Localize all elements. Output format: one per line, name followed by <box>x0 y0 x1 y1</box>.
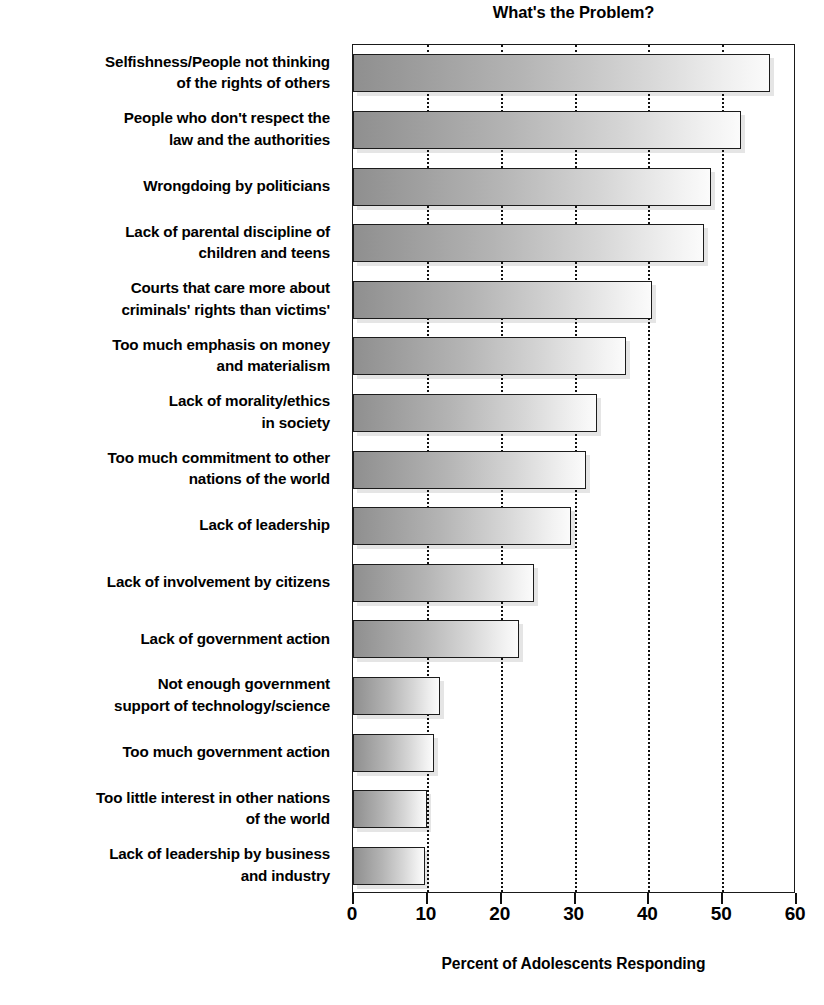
category-label: Lack of involvement by citizens <box>107 571 338 593</box>
x-tick-label-50: 50 <box>691 903 751 925</box>
bar[interactable] <box>353 394 597 432</box>
category-label-row: Lack of government action <box>0 610 338 667</box>
bar[interactable] <box>353 847 425 885</box>
category-label-row: Too much emphasis on money and materiali… <box>0 327 338 384</box>
category-label-row: Selfishness/People not thinking of the r… <box>0 44 338 101</box>
bar[interactable] <box>353 620 519 658</box>
bar-row <box>353 111 794 149</box>
bar-row <box>353 564 794 602</box>
plot-area <box>352 44 795 893</box>
category-label: Too much government action <box>122 741 338 763</box>
bar[interactable] <box>353 54 770 92</box>
chart-title: What's the Problem? <box>352 2 795 22</box>
bar[interactable] <box>353 564 534 602</box>
category-label-row: Lack of leadership <box>0 497 338 554</box>
category-label: Not enough government support of technol… <box>114 673 338 716</box>
bar-row <box>353 451 794 489</box>
x-tick-label-20: 20 <box>470 903 530 925</box>
category-label: Too much emphasis on money and materiali… <box>112 334 338 377</box>
bar-chart: What's the Problem? Selfishness/People n… <box>0 0 824 1005</box>
category-label-row: Courts that care more about criminals' r… <box>0 270 338 327</box>
category-label-row: Lack of involvement by citizens <box>0 553 338 610</box>
bar-row <box>353 394 794 432</box>
bars-layer <box>353 45 794 892</box>
bar-row <box>353 734 794 772</box>
category-label-row: People who don't respect the law and the… <box>0 101 338 158</box>
category-label: Courts that care more about criminals' r… <box>121 277 338 320</box>
category-label: Lack of leadership <box>199 514 338 536</box>
x-tick-label-40: 40 <box>617 903 677 925</box>
x-tick-label-10: 10 <box>396 903 456 925</box>
category-label-row: Too little interest in other nations of … <box>0 780 338 837</box>
bar[interactable] <box>353 224 704 262</box>
category-label: Selfishness/People not thinking of the r… <box>105 51 338 94</box>
bar[interactable] <box>353 507 571 545</box>
bar[interactable] <box>353 790 427 828</box>
x-tick-label-60: 60 <box>765 903 824 925</box>
x-tick-label-30: 30 <box>544 903 604 925</box>
x-axis-tick-labels: 0102030405060 <box>352 903 795 933</box>
category-label-row: Lack of morality/ethics in society <box>0 384 338 441</box>
category-label: Lack of parental discipline of children … <box>125 221 338 264</box>
category-label-row: Too much government action <box>0 723 338 780</box>
bar[interactable] <box>353 734 434 772</box>
bar-row <box>353 790 794 828</box>
category-label-row: Wrongdoing by politicians <box>0 157 338 214</box>
category-label-row: Not enough government support of technol… <box>0 667 338 724</box>
bar-row <box>353 337 794 375</box>
category-label: Lack of morality/ethics in society <box>169 390 338 433</box>
bar-row <box>353 847 794 885</box>
bar[interactable] <box>353 337 626 375</box>
bar[interactable] <box>353 281 652 319</box>
category-label: Wrongdoing by politicians <box>143 175 338 197</box>
category-label-row: Lack of leadership by business and indus… <box>0 836 338 893</box>
bar-row <box>353 677 794 715</box>
bar-row <box>353 224 794 262</box>
category-label: Lack of leadership by business and indus… <box>109 843 338 886</box>
bar[interactable] <box>353 111 741 149</box>
category-label: People who don't respect the law and the… <box>124 107 338 150</box>
category-label: Too much commitment to other nations of … <box>108 447 339 490</box>
bar-row <box>353 507 794 545</box>
category-axis: Selfishness/People not thinking of the r… <box>0 44 338 893</box>
x-axis-title: Percent of Adolescents Responding <box>352 955 795 973</box>
bar[interactable] <box>353 451 586 489</box>
bar-row <box>353 54 794 92</box>
bar-row <box>353 168 794 206</box>
bar-row <box>353 281 794 319</box>
bar-row <box>353 620 794 658</box>
x-tick-label-0: 0 <box>322 903 382 925</box>
bar[interactable] <box>353 168 711 206</box>
category-label: Lack of government action <box>140 628 338 650</box>
category-label-row: Lack of parental discipline of children … <box>0 214 338 271</box>
category-label: Too little interest in other nations of … <box>96 787 338 830</box>
bar[interactable] <box>353 677 440 715</box>
category-label-row: Too much commitment to other nations of … <box>0 440 338 497</box>
